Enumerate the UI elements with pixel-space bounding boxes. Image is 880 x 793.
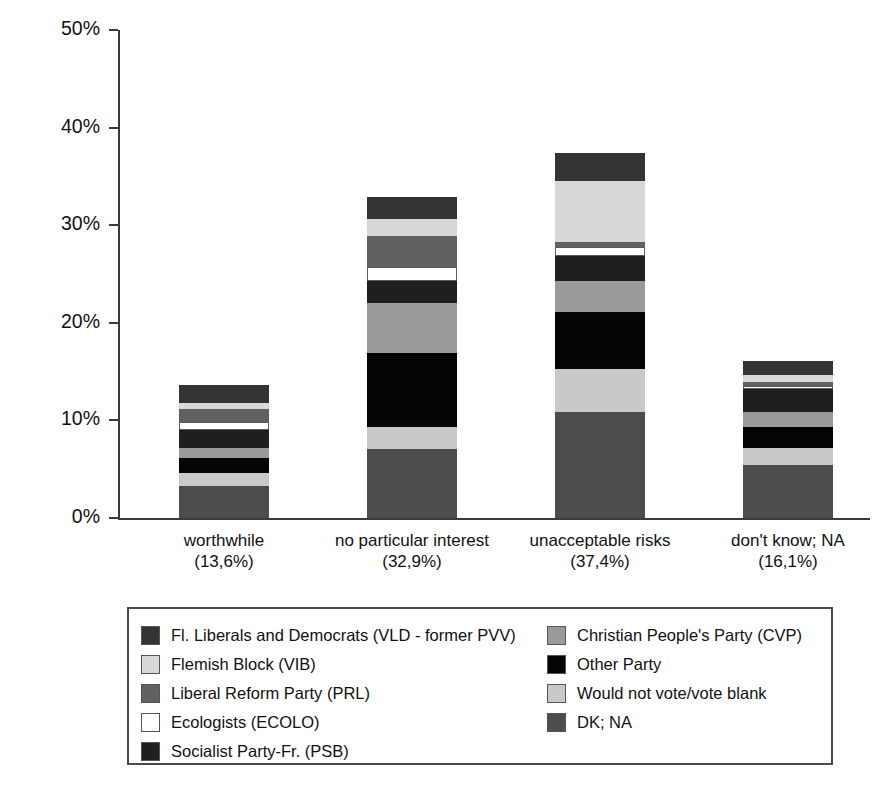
legend-item-left-4[interactable]: Ecologists (ECOLO): [141, 708, 531, 737]
legend-item-label: Socialist Party-Fr. (PSB): [171, 742, 349, 761]
bar-segment: [743, 412, 833, 428]
x-axis-label-percent: (37,4%): [495, 551, 705, 572]
legend: Fl. Liberals and Democrats (VLD - former…: [127, 607, 833, 765]
bar-segment: [367, 281, 457, 303]
y-axis-tick: [109, 224, 118, 226]
plot-area: 0%10%20%30%40%50%: [118, 30, 870, 520]
bar-segment: [555, 281, 645, 312]
legend-swatch-icon: [141, 626, 160, 645]
bar-segment: [743, 448, 833, 466]
legend-item-left-1[interactable]: Fl. Liberals and Democrats (VLD - former…: [141, 621, 531, 650]
legend-item-label: Liberal Reform Party (PRL): [171, 684, 370, 703]
bar-segment: [743, 427, 833, 447]
bar-segment: [179, 409, 269, 423]
bar-segment: [367, 219, 457, 236]
x-axis-label-percent: (16,1%): [683, 551, 880, 572]
legend-item-label: Fl. Liberals and Democrats (VLD - former…: [171, 626, 516, 645]
y-axis-tick-label: 20%: [34, 310, 100, 333]
legend-column-right: Christian People's Party (CVP)Other Part…: [547, 621, 827, 737]
legend-item-left-5[interactable]: Socialist Party-Fr. (PSB): [141, 737, 531, 766]
legend-swatch-icon: [547, 684, 566, 703]
bar-segment: [179, 448, 269, 459]
y-axis-line: [118, 30, 120, 520]
y-axis-tick: [109, 517, 118, 519]
bar-segment: [743, 389, 833, 411]
bar-3: [555, 153, 645, 518]
legend-item-label: Would not vote/vote blank: [577, 684, 767, 703]
bar-1: [179, 385, 269, 518]
legend-item-label: Ecologists (ECOLO): [171, 713, 320, 732]
legend-item-label: Christian People's Party (CVP): [577, 626, 802, 645]
legend-item-label: Flemish Block (VIB): [171, 655, 316, 674]
bar-segment: [555, 256, 645, 281]
bar-4: [743, 361, 833, 518]
legend-swatch-icon: [141, 655, 160, 674]
legend-column-left: Fl. Liberals and Democrats (VLD - former…: [141, 621, 531, 766]
bar-2: [367, 197, 457, 518]
y-axis-tick-label: 40%: [34, 115, 100, 138]
x-axis-line: [118, 518, 870, 520]
y-axis-tick-label: 50%: [34, 17, 100, 40]
bar-segment: [179, 486, 269, 518]
y-axis-tick-label: 30%: [34, 212, 100, 235]
x-axis-label-4: don't know; NA(16,1%): [683, 530, 880, 572]
bar-segment: [743, 361, 833, 375]
bar-segment: [555, 181, 645, 242]
bar-segment: [367, 303, 457, 353]
bar-segment: [179, 430, 269, 448]
bar-segment: [367, 353, 457, 427]
legend-item-right-3[interactable]: Would not vote/vote blank: [547, 679, 827, 708]
legend-swatch-icon: [141, 742, 160, 761]
legend-item-left-2[interactable]: Flemish Block (VIB): [141, 650, 531, 679]
y-axis-tick: [109, 419, 118, 421]
legend-swatch-icon: [547, 655, 566, 674]
bar-segment: [555, 412, 645, 518]
x-axis-label-2: no particular interest(32,9%): [307, 530, 517, 572]
x-axis-label-3: unacceptable risks(37,4%): [495, 530, 705, 572]
x-axis-label-percent: (32,9%): [307, 551, 517, 572]
bar-segment: [743, 465, 833, 518]
bar-segment: [555, 153, 645, 181]
bar-segment: [367, 267, 457, 281]
bar-segment: [555, 369, 645, 412]
bar-segment: [179, 385, 269, 403]
legend-item-right-4[interactable]: DK; NA: [547, 708, 827, 737]
bar-segment: [179, 458, 269, 473]
x-axis-label-1: worthwhile(13,6%): [119, 530, 329, 572]
legend-item-right-2[interactable]: Other Party: [547, 650, 827, 679]
x-axis-label-percent: (13,6%): [119, 551, 329, 572]
bar-segment: [367, 236, 457, 267]
y-axis-tick: [109, 29, 118, 31]
x-axis-label-text: unacceptable risks: [530, 531, 671, 550]
bar-segment: [179, 473, 269, 486]
y-axis-tick-label: 0%: [34, 505, 100, 528]
legend-swatch-icon: [141, 684, 160, 703]
y-axis-tick: [109, 127, 118, 129]
bar-segment: [743, 375, 833, 383]
bar-segment: [179, 422, 269, 430]
x-axis-label-text: don't know; NA: [731, 531, 845, 550]
bar-segment: [555, 312, 645, 369]
y-axis-tick: [109, 322, 118, 324]
legend-item-label: DK; NA: [577, 713, 632, 732]
bar-segment: [367, 427, 457, 448]
bar-segment: [367, 449, 457, 518]
legend-swatch-icon: [547, 713, 566, 732]
legend-item-right-1[interactable]: Christian People's Party (CVP): [547, 621, 827, 650]
y-axis-tick-label: 10%: [34, 407, 100, 430]
x-axis-label-text: no particular interest: [335, 531, 489, 550]
legend-item-left-3[interactable]: Liberal Reform Party (PRL): [141, 679, 531, 708]
bar-segment: [367, 197, 457, 219]
legend-item-label: Other Party: [577, 655, 661, 674]
stacked-bar-chart-figure: 0%10%20%30%40%50% worthwhile(13,6%)no pa…: [0, 0, 880, 793]
bar-segment: [555, 247, 645, 256]
legend-swatch-icon: [547, 626, 566, 645]
legend-swatch-icon: [141, 713, 160, 732]
x-axis-label-text: worthwhile: [184, 531, 264, 550]
